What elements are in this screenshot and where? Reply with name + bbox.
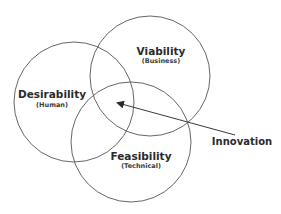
- circle-desirability: [14, 42, 134, 162]
- feasibility-subtitle: (Technical): [121, 162, 161, 170]
- innovation-label: Innovation: [212, 136, 272, 147]
- venn-diagram: Desirability (Human) Viability (Business…: [0, 0, 281, 214]
- viability-title: Viability: [137, 45, 186, 57]
- viability-subtitle: (Business): [142, 57, 180, 65]
- feasibility-title: Feasibility: [111, 150, 172, 162]
- circle-viability: [90, 16, 210, 136]
- desirability-subtitle: (Human): [36, 101, 68, 109]
- circle-feasibility: [71, 82, 191, 202]
- desirability-title: Desirability: [18, 88, 86, 100]
